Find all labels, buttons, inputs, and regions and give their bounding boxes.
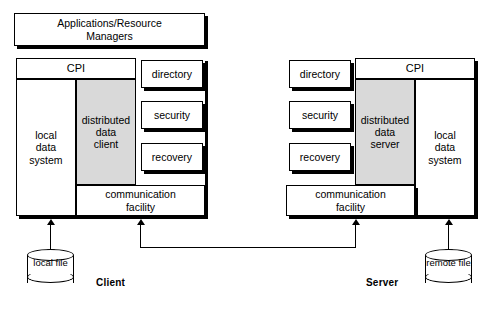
- client-cf-line-2: facility: [103, 201, 178, 213]
- client-service-security-box: security: [141, 101, 203, 129]
- server-service-recovery-box: recovery: [289, 143, 351, 171]
- client-service-directory-box: directory: [141, 60, 203, 88]
- distributed-data-client-box: distributed data client: [76, 79, 136, 185]
- client-service-security-label: security: [152, 109, 192, 121]
- remote-file-cylinder: remote file: [425, 249, 472, 285]
- client-section-label: Client: [96, 277, 125, 288]
- server-communication-facility-box: communication facility: [286, 185, 415, 216]
- server-network-arrow-icon: [352, 219, 360, 225]
- server-service-security-label: security: [300, 109, 340, 121]
- client-lds-line-3: system: [27, 154, 64, 166]
- server-cf-line-2: facility: [313, 201, 388, 213]
- server-local-data-system-label: local data system: [424, 129, 465, 165]
- architecture-diagram: Applications/Resource Managers CPI local…: [0, 0, 495, 310]
- local-file-line-2: file: [56, 257, 68, 268]
- server-service-recovery-label: recovery: [298, 151, 342, 163]
- dds-line-1: distributed: [359, 114, 411, 126]
- server-service-directory-label: directory: [298, 68, 342, 80]
- server-communication-facility-label: communication facility: [311, 188, 390, 212]
- client-cpi-label: CPI: [65, 62, 87, 75]
- client-local-data-system-box: local data system: [16, 79, 76, 216]
- dds-line-2: data: [359, 126, 411, 138]
- client-server-network-line: [140, 247, 356, 248]
- applications-line-1: Applications/Resource: [55, 17, 163, 29]
- distributed-data-server-label: distributed data server: [357, 114, 413, 150]
- remote-file-cylinder-bottom: [425, 271, 472, 283]
- client-service-recovery-label: recovery: [150, 151, 194, 163]
- ddc-line-2: data: [80, 126, 132, 138]
- client-service-recovery-box: recovery: [141, 143, 203, 171]
- ddc-line-1: distributed: [80, 114, 132, 126]
- local-file-cylinder: local file: [27, 249, 74, 285]
- distributed-data-server-box: distributed data server: [355, 79, 415, 185]
- remote-file-label: remote file: [425, 258, 472, 269]
- remote-file-line-2: file: [459, 257, 471, 268]
- client-lds-line-1: local: [27, 129, 64, 141]
- distributed-data-client-label: distributed data client: [78, 114, 134, 150]
- client-service-directory-label: directory: [150, 68, 194, 80]
- applications-resource-managers-label: Applications/Resource Managers: [53, 17, 165, 41]
- server-remotefile-arrow-up-icon: [445, 219, 453, 225]
- client-localfile-arrow-up-icon: [47, 219, 55, 225]
- client-cpi-box: CPI: [16, 58, 136, 79]
- server-lds-line-3: system: [426, 154, 463, 166]
- server-cf-line-1: communication: [313, 188, 388, 200]
- client-network-riser: [140, 224, 141, 248]
- client-lds-line-2: data: [27, 141, 64, 153]
- client-local-data-system-label: local data system: [25, 129, 66, 165]
- local-file-cylinder-bottom: [27, 271, 74, 283]
- server-cpi-label: CPI: [404, 62, 426, 75]
- client-communication-facility-label: communication facility: [101, 188, 180, 212]
- server-service-security-box: security: [289, 101, 351, 129]
- applications-line-2: Managers: [55, 30, 163, 42]
- client-network-arrow-icon: [137, 219, 145, 225]
- server-network-riser: [355, 224, 356, 248]
- server-lds-line-2: data: [426, 141, 463, 153]
- server-local-data-system-box: local data system: [415, 79, 475, 216]
- server-lds-line-1: local: [426, 129, 463, 141]
- client-cf-line-1: communication: [103, 188, 178, 200]
- local-file-line-1: local: [33, 257, 53, 268]
- ddc-line-3: client: [80, 138, 132, 150]
- client-communication-facility-box: communication facility: [76, 185, 205, 216]
- local-file-label: local file: [27, 258, 74, 269]
- remote-file-line-1: remote: [426, 257, 456, 268]
- server-service-directory-box: directory: [289, 60, 351, 88]
- server-cpi-box: CPI: [355, 58, 475, 79]
- applications-resource-managers-box: Applications/Resource Managers: [14, 13, 205, 46]
- dds-line-3: server: [359, 138, 411, 150]
- server-section-label: Server: [366, 277, 398, 288]
